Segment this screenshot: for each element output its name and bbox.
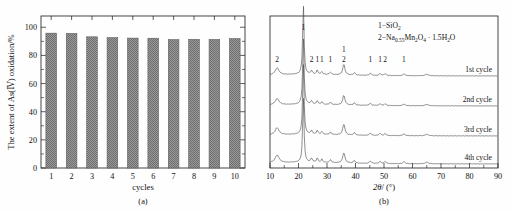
panel-a-y-tick-label: 0 xyxy=(33,164,37,173)
curve-label-3rd-cycle: 3rd cycle xyxy=(464,125,493,134)
peak-label-1-26p6: 1 xyxy=(315,55,319,64)
panel-b-x-tick-label: 40 xyxy=(351,172,359,181)
panel-b-x-axis-title: 2θ/ (°) xyxy=(373,182,395,192)
bar-cycle-4 xyxy=(107,38,118,168)
panel-b-x-tick-label: 10 xyxy=(266,172,274,181)
panel-b-x-tick-label: 50 xyxy=(380,172,388,181)
panel-a-x-axis-title: cycles xyxy=(132,182,154,192)
panel-b-caption: (b) xyxy=(379,197,389,206)
panel-b-x-tick-label: 90 xyxy=(494,172,502,181)
panel-b-phase-legend: 1−SiO2 2−Na0.55Mn2O4 · 1.5H2O xyxy=(378,21,456,43)
panel-a-x-tick-label: 7 xyxy=(172,172,176,181)
panel-a-x-tick-label: 2 xyxy=(70,172,74,181)
bar-cycle-3 xyxy=(87,37,98,168)
panel-a-caption: (a) xyxy=(138,197,148,206)
panel-a-x-tick-label: 9 xyxy=(212,172,216,181)
bar-cycle-2 xyxy=(66,33,77,168)
panel-b-curve-labels: 1st cycle2nd cycle3rd cycle4th cycle xyxy=(463,65,493,162)
curve-label-4th-cycle: 4th cycle xyxy=(464,153,492,162)
panel-b-x-tick-label: 30 xyxy=(323,172,331,181)
panel-b-x-axis: 102030405060708090 xyxy=(266,163,502,181)
peak-label-2-12p5: 2 xyxy=(275,55,279,64)
panel-a-x-tick-label: 3 xyxy=(90,172,94,181)
panel-a-svg: 020406080100 12345678910 The extent of A… xyxy=(0,0,256,211)
panel-a-y-tick-label: 80 xyxy=(29,51,37,60)
peak-label-1-21p7: 1 xyxy=(301,23,305,32)
panel-a-x-tick-label: 5 xyxy=(131,172,135,181)
bar-cycle-7 xyxy=(168,40,179,168)
panel-a-x-tick-label: 10 xyxy=(231,172,239,181)
peak-label-1-35p9: 1 xyxy=(342,45,346,54)
bar-cycle-8 xyxy=(189,39,200,168)
panel-a-x-tick-label: 1 xyxy=(49,172,53,181)
panel-a-x-tick-label: 4 xyxy=(110,172,114,181)
bar-cycle-6 xyxy=(148,38,159,168)
bar-cycle-10 xyxy=(229,39,240,168)
panel-b-x-tick-label: 70 xyxy=(437,172,445,181)
panel-b-x-tick-label: 80 xyxy=(465,172,473,181)
bar-cycle-9 xyxy=(209,40,220,168)
legend-entry-1: 1−SiO2 xyxy=(378,21,401,31)
legend-entry-2: 2−Na0.55Mn2O4 · 1.5H2O xyxy=(378,33,456,43)
figure-container: 020406080100 12345678910 The extent of A… xyxy=(0,0,512,211)
peak-label-1-57: 1 xyxy=(402,55,406,64)
peak-label-2-35p9: 2 xyxy=(342,55,346,64)
svg-text:The extent of As(Ⅳ) oxidation/: The extent of As(Ⅳ) oxidation/% xyxy=(6,34,16,150)
panel-a-y-tick-label: 100 xyxy=(25,23,37,32)
bar-cycle-1 xyxy=(46,33,57,168)
panel-a-x-tick-label: 8 xyxy=(192,172,196,181)
peak-label-1-45p2: 1 xyxy=(368,55,372,64)
curve-label-2nd-cycle: 2nd cycle xyxy=(463,95,493,104)
panel-b-xrd-chart: 102030405060708090 212111121121 1st cycl… xyxy=(256,0,512,211)
panel-a-y-axis-title: The extent of As(Ⅳ) oxidation/% xyxy=(6,34,16,150)
panel-a-bars-group xyxy=(46,33,240,168)
peak-label-1-31p2: 1 xyxy=(329,55,333,64)
panel-b-x-tick-label: 60 xyxy=(408,172,416,181)
panel-a-bar-chart: 020406080100 12345678910 The extent of A… xyxy=(0,0,256,211)
panel-a-y-tick-label: 20 xyxy=(29,136,37,145)
peak-label-2-24p6: 2 xyxy=(310,55,314,64)
panel-a-x-tick-label: 6 xyxy=(151,172,155,181)
peak-label-1-48p6: 1 xyxy=(378,55,382,64)
peak-label-1-28p2: 1 xyxy=(320,55,324,64)
panel-b-x-tick-label: 20 xyxy=(294,172,302,181)
panel-a-y-tick-label: 40 xyxy=(29,108,37,117)
curve-label-1st-cycle: 1st cycle xyxy=(465,65,492,74)
bar-cycle-5 xyxy=(127,38,138,168)
panel-b-svg: 102030405060708090 212111121121 1st cycl… xyxy=(256,0,512,211)
peak-label-2-50p4: 2 xyxy=(383,55,387,64)
panel-a-y-tick-label: 60 xyxy=(29,80,37,89)
